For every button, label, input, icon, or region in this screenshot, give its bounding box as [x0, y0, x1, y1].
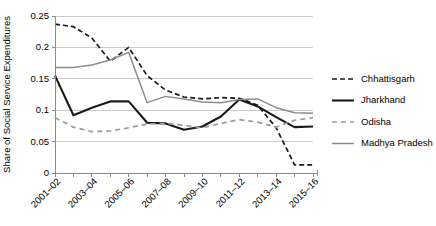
x-tick-label: 2011–12 — [213, 176, 246, 209]
x-tick-label: 2001–02 — [28, 176, 62, 210]
x-tick-label: 2015–16 — [286, 176, 320, 210]
y-tick-label: 0.1 — [36, 104, 49, 115]
legend-label-chhattisgarh: Chhattisgarh — [361, 73, 415, 84]
line-chart: 00.050.10.150.20.25 2001–022003–042005–0… — [0, 0, 436, 226]
series-line-jharkhand — [55, 76, 313, 130]
x-tick-label: 2007–08 — [139, 176, 173, 210]
series-line-madhya-pradesh — [55, 52, 313, 113]
y-tick-label: 0 — [44, 167, 49, 178]
chart-canvas: 00.050.10.150.20.25 2001–022003–042005–0… — [0, 0, 436, 226]
y-tick-label: 0.15 — [31, 73, 50, 84]
x-tick-label: 2013–14 — [250, 176, 284, 210]
y-axis-title: Share of Social Service Expenditures — [1, 16, 12, 173]
y-tick-label: 0.05 — [31, 136, 50, 147]
x-tick-label: 2009–10 — [176, 176, 210, 210]
y-tick-label: 0.2 — [36, 41, 49, 52]
y-tick-label: 0.25 — [31, 10, 50, 21]
x-tick-label: 2003–04 — [65, 176, 99, 210]
y-tick-labels: 00.050.10.150.20.25 — [31, 10, 50, 178]
chart-legend: ChhattisgarhJharkhandOdishaMadhya Prades… — [332, 73, 433, 149]
series-group — [55, 24, 313, 165]
x-tick-label: 2005–06 — [102, 176, 136, 210]
legend-label-jharkhand: Jharkhand — [361, 94, 405, 105]
legend-label-odisha: Odisha — [361, 116, 392, 127]
legend-label-madhya-pradesh: Madhya Pradesh — [361, 137, 433, 148]
y-axis-title-text: Share of Social Service Expenditures — [1, 16, 12, 173]
x-tick-labels: 2001–022003–042005–062007–082009–102011–… — [28, 176, 320, 210]
series-line-chhattisgarh — [55, 24, 313, 165]
